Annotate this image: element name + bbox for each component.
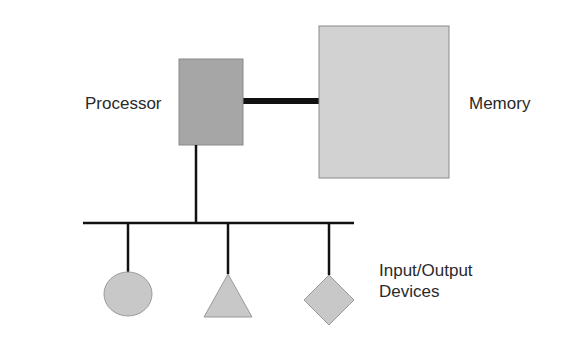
processor-label: Processor	[85, 93, 162, 114]
memory-box	[319, 26, 449, 178]
io-label-line1: Input/Output	[379, 260, 473, 281]
device-triangle	[204, 274, 252, 317]
io-label-line2: Devices	[379, 281, 473, 302]
processor-box	[179, 59, 243, 145]
device-circle	[104, 272, 152, 316]
io-devices-label: Input/Output Devices	[379, 260, 473, 302]
memory-label: Memory	[469, 93, 530, 114]
architecture-diagram	[0, 0, 575, 337]
device-diamond	[304, 275, 354, 325]
